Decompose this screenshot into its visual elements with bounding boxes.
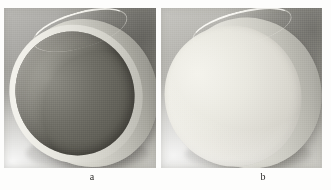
panel-a-caption: a: [82, 171, 102, 183]
panel-b-caption: b: [253, 171, 273, 183]
photo-panel-b: [161, 8, 322, 168]
photo-panel-a: [4, 8, 156, 168]
figure-plate: a b: [0, 0, 331, 190]
